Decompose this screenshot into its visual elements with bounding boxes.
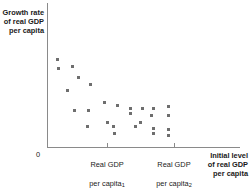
data-point	[56, 58, 59, 61]
data-point	[152, 127, 155, 130]
data-point	[77, 76, 80, 79]
data-point	[134, 125, 137, 128]
data-point	[150, 114, 153, 117]
data-point	[57, 67, 60, 70]
data-point	[116, 104, 119, 107]
data-point	[141, 107, 144, 110]
data-point	[66, 89, 69, 92]
data-point	[71, 65, 74, 68]
data-point	[139, 121, 142, 124]
data-point	[152, 107, 155, 110]
data-point	[167, 105, 170, 108]
data-point	[89, 83, 92, 86]
data-point	[112, 125, 115, 128]
data-point	[86, 125, 89, 128]
data-point	[106, 121, 109, 124]
data-point	[129, 107, 132, 110]
x-tick-label-0-subscript: 1	[122, 182, 125, 188]
scatter-chart-figure: Growth rate of real GDP per capita 0 Rea…	[0, 0, 252, 188]
x-tick-label-real-gdp-per-capita-1: Real GDP per capita1	[79, 151, 135, 188]
x-tick-label-0-line2: per capita	[89, 179, 121, 188]
x-axis-line	[47, 147, 240, 148]
data-point	[129, 112, 132, 115]
data-point	[167, 134, 170, 137]
plot-area	[47, 3, 240, 147]
data-point	[167, 128, 170, 131]
y-axis-label: Growth rate of real GDP per capita	[0, 8, 44, 36]
data-point	[113, 132, 116, 135]
data-point	[152, 132, 155, 135]
x-tick-label-1-line1: Real GDP	[157, 160, 190, 169]
origin-label: 0	[32, 150, 44, 159]
x-tick-label-1-line2: per capita	[156, 179, 188, 188]
data-point	[167, 114, 170, 117]
data-point	[103, 101, 106, 104]
x-tick-label-0-line1: Real GDP	[90, 160, 123, 169]
data-point	[87, 109, 90, 112]
x-axis-label: Initial level of real GDP per capita	[190, 151, 252, 179]
data-point	[73, 109, 76, 112]
x-tick-label-1-subscript: 2	[189, 182, 192, 188]
